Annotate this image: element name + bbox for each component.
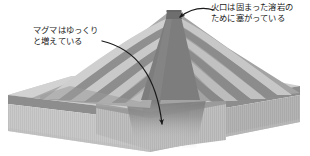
- magma-annotation-line-2: と増えている: [33, 36, 99, 47]
- volcano-cross-section-illustration: [0, 0, 310, 156]
- magma-annotation-text: マグマはゆっくり と増えている: [33, 25, 99, 46]
- crater-annotation-line-2: ために塞がっている: [211, 13, 293, 24]
- magma-annotation-line-1: マグマはゆっくり: [33, 25, 99, 36]
- crater-annotation-line-1: 火口は固まった溶岩の: [211, 2, 293, 13]
- crater-annotation-text: 火口は固まった溶岩の ために塞がっている: [211, 2, 293, 23]
- crater-arrow: [180, 8, 214, 17]
- volcano-diagram-figure: 火口は固まった溶岩の ために塞がっている マグマはゆっくり と増えている: [0, 0, 310, 156]
- magma-chamber: [126, 100, 206, 148]
